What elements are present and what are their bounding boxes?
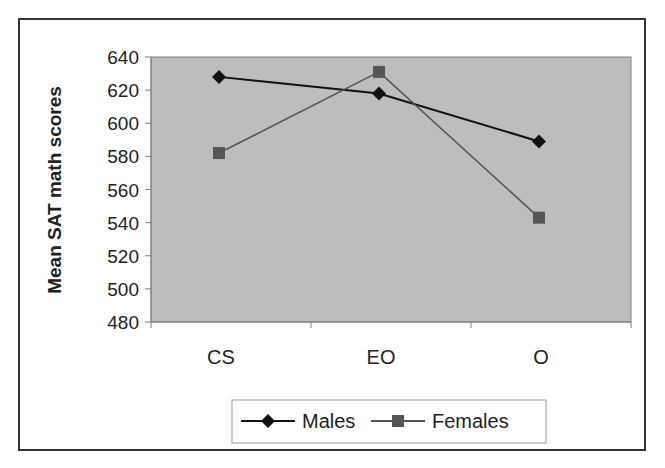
y-tick-label: 580 [107, 146, 139, 167]
y-tick-label: 500 [107, 279, 139, 300]
square-marker-icon [392, 415, 404, 427]
line-chart: 480500520540560580600620640 CSEOO Mean S… [0, 0, 665, 468]
square-marker-icon [213, 147, 225, 159]
y-axis: 480500520540560580600620640 [107, 47, 151, 333]
y-tick-label: 480 [107, 312, 139, 333]
x-category-label: O [533, 346, 549, 368]
legend-label-females: Females [432, 410, 509, 432]
x-category-label: EO [367, 346, 396, 368]
square-marker-icon [373, 66, 385, 78]
y-tick-label: 640 [107, 47, 139, 68]
y-tick-label: 520 [107, 246, 139, 267]
y-axis-title: Mean SAT math scores [44, 86, 65, 294]
y-tick-label: 600 [107, 113, 139, 134]
legend-label-males: Males [302, 410, 355, 432]
y-tick-label: 620 [107, 80, 139, 101]
x-category-label: CS [207, 346, 235, 368]
square-marker-icon [533, 212, 545, 224]
y-tick-label: 560 [107, 180, 139, 201]
y-tick-label: 540 [107, 213, 139, 234]
x-axis: CSEOO [151, 322, 631, 368]
legend: Males Females [232, 400, 546, 443]
